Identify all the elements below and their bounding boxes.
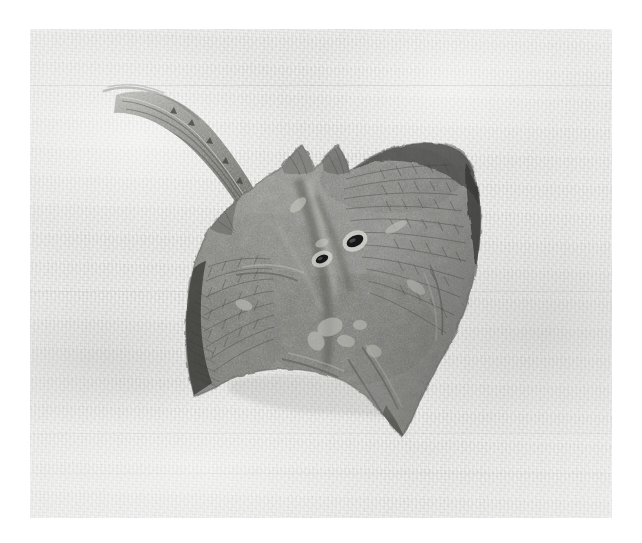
paper-background bbox=[30, 29, 612, 518]
skate-specimen bbox=[30, 29, 612, 518]
specimen-plate bbox=[0, 0, 642, 543]
image-caption bbox=[0, 0, 1, 1]
